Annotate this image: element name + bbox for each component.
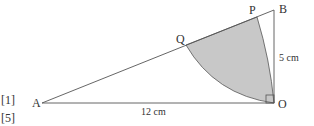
label-O: O [278,98,287,110]
mark-1: [1] [1,94,15,106]
shaded-region [186,17,274,103]
measure-AO: 12 cm [141,107,166,117]
mark-5: [5] [1,112,15,124]
measure-OB: 5 cm [279,53,299,63]
label-Q: Q [176,33,185,45]
label-A: A [32,97,41,109]
label-B: B [279,3,287,15]
label-P: P [249,4,256,16]
